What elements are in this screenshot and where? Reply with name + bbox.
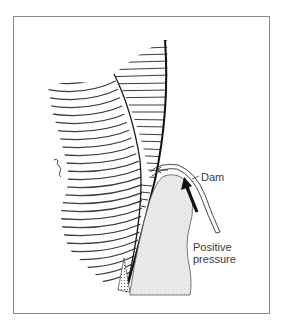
squiggle-mark	[54, 159, 61, 177]
positive-pressure-line2: pressure	[193, 253, 236, 265]
dotted-wedge	[118, 258, 130, 292]
positive-pressure-line1: Positive	[193, 241, 236, 253]
anatomy-diagram	[0, 0, 285, 330]
tooth-body	[130, 175, 193, 295]
positive-pressure-label: Positive pressure	[193, 241, 236, 265]
hatched-tissue-left	[40, 72, 144, 284]
dam-label: Dam	[201, 171, 224, 183]
small-arrow-icon	[157, 167, 168, 173]
